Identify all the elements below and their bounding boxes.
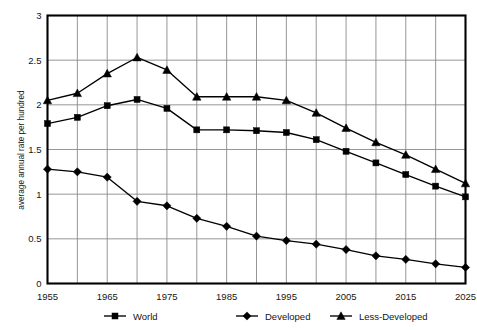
data-point-marker-diamond bbox=[282, 237, 290, 245]
data-point-marker-diamond bbox=[43, 165, 51, 173]
data-point-marker-diamond bbox=[193, 214, 201, 222]
y-axis-title-label: average annual rate per hundred bbox=[17, 90, 26, 210]
data-point-marker-square bbox=[254, 128, 260, 134]
data-point-marker-square bbox=[433, 183, 439, 189]
data-point-marker-triangle bbox=[431, 165, 439, 173]
legend-item-world[interactable]: World bbox=[104, 311, 158, 322]
data-point-marker-square bbox=[74, 114, 80, 120]
legend-item-label: World bbox=[133, 311, 158, 322]
line-chart-figure: average annual rate per hundred 00.511.5… bbox=[0, 0, 477, 330]
y-axis-tick-label: 1 bbox=[36, 189, 41, 200]
y-axis-tick-label: 2.5 bbox=[28, 55, 41, 66]
x-axis-tick-label: 2015 bbox=[395, 291, 416, 302]
data-point-marker-diamond bbox=[312, 240, 320, 248]
data-point-marker-square bbox=[313, 137, 319, 143]
y-axis-tick-label: 3 bbox=[36, 10, 41, 21]
chart-canvas: average annual rate per hundred 00.511.5… bbox=[0, 0, 477, 330]
x-axis-tick-label: 1965 bbox=[97, 291, 118, 302]
data-point-marker-triangle bbox=[372, 138, 380, 146]
data-point-marker-square bbox=[343, 148, 349, 154]
data-point-marker-square bbox=[194, 127, 200, 133]
x-axis-tick-label: 1975 bbox=[156, 291, 177, 302]
y-axis-tick-label: 0 bbox=[36, 278, 41, 289]
data-point-marker-diamond bbox=[372, 252, 380, 260]
data-point-marker-triangle bbox=[73, 89, 81, 97]
x-axis-tick-labels: 19551965197519851995200520152025 bbox=[37, 291, 476, 302]
legend-marker-diamond bbox=[243, 312, 251, 320]
legend-item-label: Developed bbox=[265, 311, 310, 322]
legend-item-developed[interactable]: Developed bbox=[236, 311, 310, 322]
data-point-marker-diamond bbox=[223, 222, 231, 230]
x-axis-tick-label: 1995 bbox=[276, 291, 297, 302]
legend-item-label: Less-Developed bbox=[359, 311, 428, 322]
data-point-marker-square bbox=[104, 103, 110, 109]
data-point-marker-triangle bbox=[402, 151, 410, 159]
data-point-marker-triangle bbox=[342, 124, 350, 132]
y-axis-title: average annual rate per hundred bbox=[17, 90, 26, 210]
data-point-marker-triangle bbox=[312, 109, 320, 117]
data-point-marker-square bbox=[463, 194, 469, 200]
data-point-marker-square bbox=[403, 172, 409, 178]
y-axis-tick-label: 1.5 bbox=[28, 144, 41, 155]
x-axis-tick-label: 1985 bbox=[216, 291, 237, 302]
data-point-marker-square bbox=[283, 130, 289, 136]
data-point-marker-triangle bbox=[163, 66, 171, 74]
y-axis-tick-label: 2 bbox=[36, 99, 41, 110]
data-point-marker-diamond bbox=[432, 260, 440, 268]
data-point-marker-diamond bbox=[461, 263, 469, 271]
data-point-marker-square bbox=[134, 96, 140, 102]
data-point-marker-diamond bbox=[342, 245, 350, 253]
legend-marker-square bbox=[112, 313, 118, 319]
x-axis-tick-label: 1955 bbox=[37, 291, 58, 302]
data-point-marker-diamond bbox=[163, 202, 171, 210]
y-axis-tick-labels: 00.511.522.53 bbox=[28, 10, 41, 289]
data-point-marker-diamond bbox=[402, 255, 410, 263]
data-point-marker-triangle bbox=[133, 53, 141, 61]
data-point-marker-triangle bbox=[103, 69, 111, 77]
x-axis-tick-label: 2025 bbox=[455, 291, 476, 302]
x-axis-tick-label: 2005 bbox=[336, 291, 357, 302]
legend-item-less-developed[interactable]: Less-Developed bbox=[330, 311, 428, 322]
data-point-marker-diamond bbox=[73, 168, 81, 176]
chart-legend: WorldDevelopedLess-Developed bbox=[104, 311, 428, 322]
data-point-marker-square bbox=[373, 160, 379, 166]
data-point-marker-square bbox=[224, 127, 230, 133]
data-point-marker-square bbox=[45, 121, 51, 127]
data-point-marker-square bbox=[164, 105, 170, 111]
data-point-marker-triangle bbox=[461, 179, 469, 187]
y-axis-tick-label: 0.5 bbox=[28, 233, 41, 244]
